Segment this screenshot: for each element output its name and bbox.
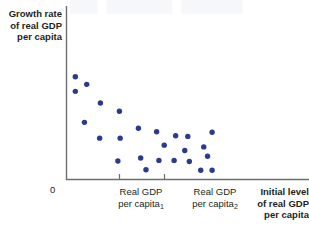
data-point: [117, 109, 122, 114]
data-point: [154, 129, 159, 134]
scatter-chart-figure: Growth rate of real GDP per capita Initi…: [0, 0, 309, 226]
data-point: [84, 82, 89, 87]
series-countries: [73, 74, 215, 173]
data-point: [73, 74, 78, 79]
data-point: [73, 89, 78, 94]
data-point: [185, 134, 190, 139]
data-point: [209, 168, 214, 173]
data-point: [143, 167, 148, 172]
data-point: [162, 142, 167, 147]
data-point: [171, 158, 176, 163]
data-point: [97, 135, 102, 140]
scatter-points-layer: [73, 74, 215, 173]
data-point: [82, 120, 87, 125]
data-point: [187, 159, 192, 164]
data-point: [201, 144, 206, 149]
data-point: [138, 155, 143, 160]
data-point: [156, 158, 161, 163]
scatter-plot-canvas: [0, 0, 309, 226]
data-point: [117, 135, 122, 140]
data-point: [205, 154, 210, 159]
data-point: [198, 168, 203, 173]
data-point: [98, 100, 103, 105]
data-point: [173, 133, 178, 138]
data-point: [115, 158, 120, 163]
data-point: [136, 126, 141, 131]
data-point: [182, 148, 187, 153]
data-point: [209, 130, 214, 135]
chart-axes: [66, 6, 309, 180]
